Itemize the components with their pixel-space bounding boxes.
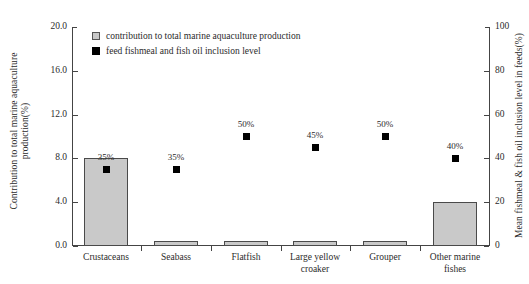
x-axis-label-flatfish: Flatfish bbox=[211, 251, 281, 263]
left-axis-title-line1: Contribution to total marine aquaculture bbox=[9, 53, 19, 210]
marker-flatfish[interactable] bbox=[243, 133, 250, 140]
bar-seabass[interactable] bbox=[154, 241, 198, 247]
left-tick-label-1: 4.0 bbox=[55, 196, 67, 206]
marker-label-seabass: 35% bbox=[156, 152, 196, 162]
marker-large-yellow-croaker[interactable] bbox=[312, 144, 319, 151]
legend-swatch-marker-icon bbox=[92, 47, 100, 55]
marker-label-other-marine-fishes: 40% bbox=[435, 141, 475, 151]
chart-legend: contribution to total marine aquaculture… bbox=[92, 28, 300, 58]
left-tick-label-0: 0.0 bbox=[55, 240, 67, 250]
right-axis-title: Mean fishmeal & fish oil inclusion level… bbox=[514, 11, 525, 261]
legend-label-contribution: contribution to total marine aquaculture… bbox=[106, 31, 300, 41]
right-axis-spine bbox=[489, 27, 490, 246]
left-axis-spine bbox=[72, 27, 73, 246]
bar-flatfish[interactable] bbox=[224, 241, 268, 247]
chart-figure: Contribution to total marine aquaculture… bbox=[0, 0, 529, 284]
plot-area: 0.0 4.0 8.0 12.0 16.0 20.0 0 20 bbox=[72, 27, 490, 246]
x-axis-label-other-marine-fishes: Other marine fishes bbox=[422, 251, 488, 275]
marker-grouper[interactable] bbox=[382, 133, 389, 140]
legend-label-inclusion-level: feed fishmeal and fish oil inclusion lev… bbox=[106, 46, 261, 56]
left-axis-top-cap bbox=[72, 27, 77, 28]
marker-other-marine-fishes[interactable] bbox=[452, 155, 459, 162]
marker-crustaceans[interactable] bbox=[103, 166, 110, 173]
right-tick-label-5: 100 bbox=[495, 21, 509, 31]
legend-item-inclusion-level[interactable]: feed fishmeal and fish oil inclusion lev… bbox=[92, 43, 300, 58]
x-axis-label-seabass: Seabass bbox=[141, 251, 211, 263]
legend-swatch-bar-icon bbox=[92, 32, 100, 40]
left-tick-label-2: 8.0 bbox=[55, 152, 67, 162]
left-axis-title-line2: production(%) bbox=[20, 16, 31, 246]
left-axis-title: Contribution to total marine aquaculture… bbox=[9, 16, 31, 246]
marker-label-large-yellow-croaker: 45% bbox=[295, 130, 335, 140]
bar-grouper[interactable] bbox=[363, 241, 407, 247]
left-tick-label-4: 16.0 bbox=[50, 65, 67, 75]
right-axis-top-cap bbox=[485, 27, 490, 28]
marker-label-grouper: 50% bbox=[365, 119, 405, 129]
x-axis-label-crustaceans: Crustaceans bbox=[71, 251, 141, 263]
marker-label-flatfish: 50% bbox=[226, 119, 266, 129]
x-axis-label-large-yellow-croaker: Large yellow croaker bbox=[282, 251, 348, 275]
x-axis-label-grouper: Grouper bbox=[350, 251, 420, 263]
bar-other-marine-fishes[interactable] bbox=[433, 202, 477, 246]
right-tick-label-4: 80 bbox=[495, 65, 505, 75]
right-tick-label-0: 0 bbox=[495, 240, 500, 250]
right-tick-label-1: 20 bbox=[495, 196, 505, 206]
left-tick-label-5: 20.0 bbox=[50, 21, 67, 31]
legend-item-contribution[interactable]: contribution to total marine aquaculture… bbox=[92, 28, 300, 43]
right-tick-label-3: 60 bbox=[495, 109, 505, 119]
marker-seabass[interactable] bbox=[173, 166, 180, 173]
marker-label-crustaceans: 35% bbox=[86, 152, 126, 162]
bar-large-yellow-croaker[interactable] bbox=[293, 241, 337, 247]
left-tick-label-3: 12.0 bbox=[50, 109, 67, 119]
x-tick-4 bbox=[420, 246, 421, 251]
right-tick-label-2: 40 bbox=[495, 152, 505, 162]
